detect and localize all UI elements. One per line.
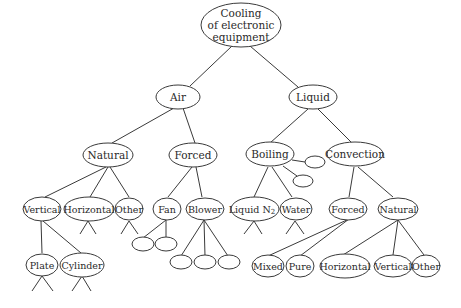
node-conv-vertical: Vertical bbox=[373, 255, 412, 277]
node-boiling-unlabeled-1 bbox=[305, 156, 325, 168]
node-conv-natural: Natural bbox=[378, 198, 418, 220]
node-boiling-label: Boiling bbox=[251, 148, 289, 160]
edge-natural-horizontal bbox=[90, 167, 108, 197]
edge-boiling-liquidn2 bbox=[254, 167, 268, 197]
edge-liquid-convection bbox=[318, 109, 352, 143]
edge-boiling-water bbox=[272, 167, 292, 197]
edge-stub bbox=[82, 276, 91, 291]
node-blower-unlabeled-2 bbox=[194, 255, 216, 269]
edge-air-natural bbox=[112, 108, 174, 143]
edge-stub bbox=[32, 276, 42, 291]
node-pure: Pure bbox=[286, 255, 314, 277]
edge-forced-fan bbox=[168, 167, 192, 197]
node-water: Water bbox=[280, 198, 312, 220]
node-water-label: Water bbox=[282, 204, 311, 215]
edge-root-liquid bbox=[250, 46, 298, 87]
edge-natural-vertical bbox=[393, 220, 398, 255]
node-conv-vertical-label: Vertical bbox=[373, 261, 411, 272]
node-boiling: Boiling bbox=[246, 142, 294, 166]
edge-forced-blower bbox=[196, 167, 202, 197]
node-mixed: Mixed bbox=[252, 255, 284, 277]
node-liquid-label: Liquid bbox=[296, 91, 330, 103]
edge-stub bbox=[121, 221, 129, 234]
node-conv-forced-label: Forced bbox=[331, 204, 364, 215]
node-fan: Fan bbox=[153, 198, 181, 220]
node-root: Cooling of electronic equipment bbox=[201, 3, 281, 47]
node-conv-natural-label: Natural bbox=[379, 204, 416, 215]
node-fan-unlabeled-2 bbox=[155, 237, 177, 251]
node-air-other-label: Other bbox=[115, 204, 143, 215]
edge-natural-vertical bbox=[45, 167, 106, 197]
node-plate: Plate bbox=[26, 254, 58, 276]
node-vertical: Vertical bbox=[22, 197, 61, 221]
edge-boiling-unlabeled-1 bbox=[292, 160, 305, 162]
node-vertical-label: Vertical bbox=[22, 204, 60, 215]
node-conv-other-label: Other bbox=[412, 261, 440, 272]
edge-natural-other bbox=[110, 167, 129, 197]
node-conv-horizontal-label: Horizontal bbox=[320, 261, 371, 272]
root-label-line-1: Cooling bbox=[221, 7, 262, 19]
edge-vertical-cylinder bbox=[43, 221, 81, 253]
node-air-forced: Forced bbox=[169, 143, 217, 167]
node-conv-horizontal: Horizontal bbox=[320, 254, 371, 278]
edge-stub bbox=[244, 221, 254, 234]
node-blower-label: Blower bbox=[188, 204, 222, 215]
node-pure-label: Pure bbox=[289, 261, 312, 272]
node-cylinder-label: Cylinder bbox=[61, 260, 103, 271]
node-liquid: Liquid bbox=[289, 85, 337, 109]
edge-stub bbox=[295, 221, 304, 234]
edge-convection-natural bbox=[358, 167, 393, 197]
node-plate-label: Plate bbox=[30, 260, 55, 271]
node-blower-unlabeled-3 bbox=[218, 255, 240, 269]
node-air-other: Other bbox=[115, 198, 143, 220]
edge-blower-unlabeled-3 bbox=[204, 220, 228, 256]
node-liquid-n2-label: Liquid N2 bbox=[229, 204, 275, 217]
edge-root-air bbox=[190, 46, 232, 86]
edge-stub bbox=[254, 221, 262, 234]
edge-fan-unlabeled-1 bbox=[143, 220, 166, 238]
edge-stub bbox=[286, 221, 295, 234]
node-blower-unlabeled-1 bbox=[170, 255, 192, 269]
edge-natural-horizontal bbox=[343, 220, 398, 255]
node-convection-label: Convection bbox=[325, 148, 385, 160]
node-air-natural: Natural bbox=[83, 143, 133, 167]
node-mixed-label: Mixed bbox=[253, 261, 283, 272]
edge-convection-forced bbox=[349, 167, 354, 197]
node-convection: Convection bbox=[325, 142, 385, 166]
edge-air-forced bbox=[183, 108, 195, 143]
node-air-natural-label: Natural bbox=[87, 149, 129, 161]
edge-vertical-plate bbox=[41, 221, 42, 253]
edge-boiling-unlabeled-2 bbox=[283, 166, 297, 176]
node-conv-other: Other bbox=[412, 255, 440, 277]
node-air: Air bbox=[156, 85, 200, 109]
edge-natural-other bbox=[398, 220, 424, 255]
node-air-label: Air bbox=[169, 91, 187, 103]
root-label-line-3: equipment bbox=[213, 31, 271, 43]
node-horizontal: Horizontal bbox=[64, 197, 115, 221]
edge-liquid-boiling bbox=[270, 109, 308, 143]
root-label-line-2: of electronic bbox=[208, 19, 275, 31]
edge-forced-mixed bbox=[268, 219, 349, 256]
node-blower: Blower bbox=[186, 198, 224, 220]
edge-stub bbox=[72, 276, 82, 291]
node-conv-forced: Forced bbox=[329, 198, 367, 220]
tree-nodes: Cooling of electronic equipment Air Liqu… bbox=[22, 3, 440, 278]
node-fan-unlabeled-1 bbox=[132, 237, 154, 251]
cooling-classification-tree: Cooling of electronic equipment Air Liqu… bbox=[0, 0, 461, 308]
edge-stub bbox=[80, 221, 88, 234]
node-air-forced-label: Forced bbox=[175, 149, 212, 161]
edge-blower-unlabeled-1 bbox=[181, 220, 204, 256]
node-horizontal-label: Horizontal bbox=[64, 204, 115, 215]
edge-stub bbox=[129, 221, 138, 234]
edge-blower-unlabeled-2 bbox=[204, 220, 205, 256]
node-liquid-n2: Liquid N2 bbox=[229, 197, 279, 221]
node-cylinder: Cylinder bbox=[60, 253, 104, 277]
node-boiling-unlabeled-2 bbox=[293, 175, 313, 187]
edge-stub bbox=[42, 276, 53, 291]
edge-stub bbox=[88, 221, 96, 234]
node-fan-label: Fan bbox=[158, 204, 176, 215]
